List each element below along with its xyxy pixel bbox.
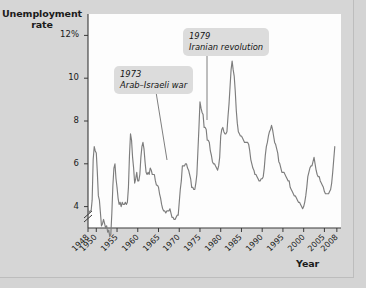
- annotation-callout-1973: 1973 Arab–Israeli war: [114, 66, 193, 94]
- y-axis-ticks: [84, 35, 88, 206]
- y-axis-title-line2: rate: [31, 19, 53, 30]
- y-axis-tick-label: 4: [45, 201, 79, 211]
- x-axis-title: Year: [296, 258, 342, 269]
- y-axis-tick-label: 10: [45, 72, 79, 82]
- annotation-text-1973: Arab–Israeli war: [120, 80, 187, 91]
- x-axis-ticks: [88, 228, 337, 232]
- leader-line-1973: [156, 92, 167, 160]
- y-axis-tick-label: 6: [45, 158, 79, 168]
- y-axis-title-line1: Unemployment: [2, 8, 82, 19]
- annotation-year-1973: 1973: [120, 69, 187, 80]
- y-axis-title: Unemployment rate: [2, 8, 82, 30]
- unemployment-rate-figure: Unemployment rate Year 4681012% 19481950…: [0, 0, 366, 288]
- annotation-text-1979: Iranian revolution: [189, 42, 263, 53]
- annotation-callout-1979: 1979 Iranian revolution: [183, 28, 269, 56]
- annotation-year-1979: 1979: [189, 31, 263, 42]
- y-axis-tick-label: 8: [45, 115, 79, 125]
- y-axis-tick-label: 12%: [45, 29, 79, 39]
